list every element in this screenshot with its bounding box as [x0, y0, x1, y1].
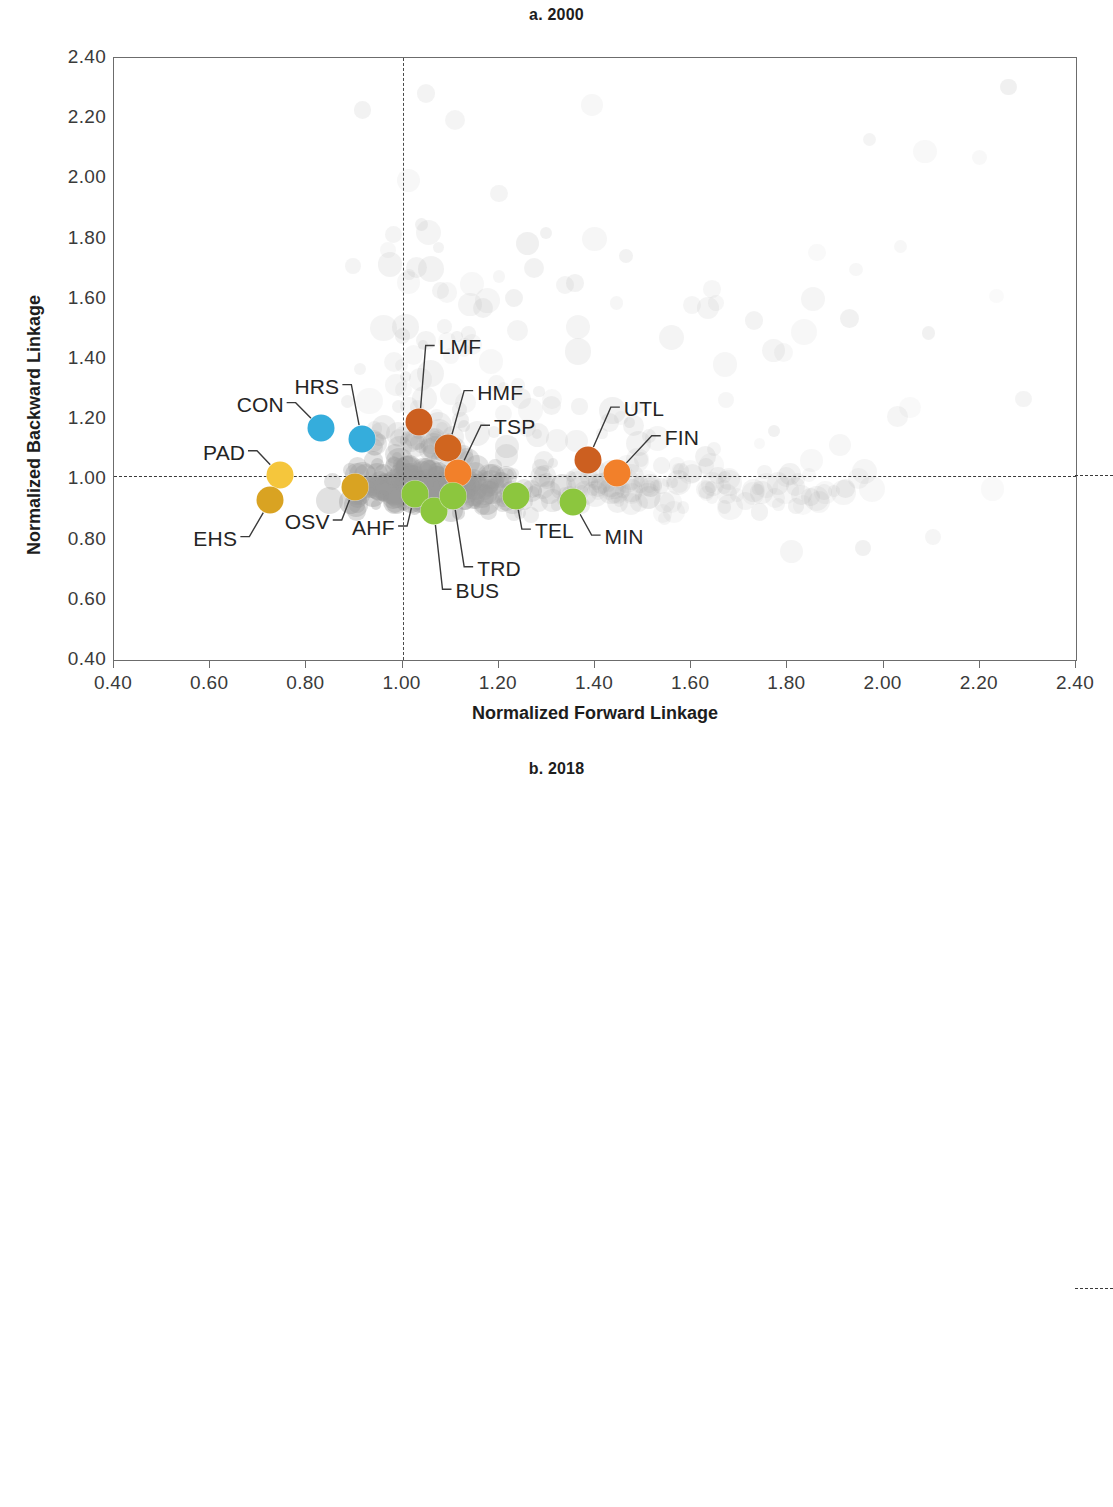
x-tick-label: 2.00: [864, 672, 902, 694]
x-tick-mark: [594, 661, 595, 668]
callout-label-bus: BUS: [456, 579, 500, 603]
x-tick-label: 0.40: [94, 672, 132, 694]
x-tick-mark: [209, 661, 210, 668]
callout-label-tel: TEL: [535, 519, 574, 543]
y-tick-label: 2.40: [68, 46, 106, 68]
callout-label-hmf: HMF: [477, 381, 523, 405]
x-tick-mark: [979, 661, 980, 668]
x-tick-mark: [113, 661, 114, 668]
y-axis-title-2000: Normalized Backward Linkage: [24, 295, 45, 555]
panel-2000: a. 2000 CONHRSPADEHSOSVLMFHMFTSPAHFBUSTR…: [0, 0, 1113, 740]
data-point-osv[interactable]: [341, 473, 368, 500]
data-point-tel[interactable]: [502, 482, 529, 509]
data-point-min[interactable]: [560, 488, 587, 515]
callout-label-hrs: HRS: [294, 375, 339, 399]
data-point-trd[interactable]: [440, 482, 467, 509]
y-tick-label: 2.00: [68, 166, 106, 188]
x-tick-mark: [498, 661, 499, 668]
y-tick-label: 2.20: [68, 106, 106, 128]
callout-label-ahf: AHF: [352, 516, 395, 540]
x-tick-label: 1.00: [383, 672, 421, 694]
background-scatter-cloud: [114, 58, 1076, 660]
reference-line-vertical: [403, 58, 404, 660]
panel-b-title: b. 2018: [0, 760, 1113, 778]
x-tick-label: 0.80: [286, 672, 324, 694]
x-tick-label: 2.20: [960, 672, 998, 694]
reference-line-horizontal: [114, 476, 1076, 477]
data-point-con[interactable]: [307, 415, 334, 442]
callout-label-tsp: TSP: [494, 415, 535, 439]
figure-root: a. 2000 CONHRSPADEHSOSVLMFHMFTSPAHFBUSTR…: [0, 0, 1113, 1507]
callout-label-fin: FIN: [665, 426, 699, 450]
callout-label-con: CON: [237, 393, 284, 417]
callout-label-pad: PAD: [203, 441, 245, 465]
x-tick-label: 0.60: [190, 672, 228, 694]
callout-label-osv: OSV: [285, 510, 330, 534]
x-tick-mark: [690, 661, 691, 668]
callout-label-utl: UTL: [624, 397, 664, 421]
data-point-fin[interactable]: [603, 460, 630, 487]
reference-line-horizontal-extension: [1075, 1288, 1113, 1289]
y-tick-label: 1.00: [68, 467, 106, 489]
x-axis-ticks-2000: 0.400.600.801.001.201.401.601.802.002.20…: [113, 672, 1077, 698]
x-axis-title-2000: Normalized Forward Linkage: [113, 703, 1077, 724]
y-tick-label: 1.40: [68, 347, 106, 369]
data-point-hmf[interactable]: [435, 434, 462, 461]
callout-label-lmf: LMF: [439, 335, 482, 359]
x-tick-label: 1.40: [575, 672, 613, 694]
y-tick-label: 0.60: [68, 588, 106, 610]
callout-label-trd: TRD: [477, 557, 521, 581]
callout-label-ehs: EHS: [193, 527, 237, 551]
data-point-lmf[interactable]: [406, 409, 433, 436]
data-point-pad[interactable]: [266, 461, 293, 488]
x-tick-label: 1.60: [671, 672, 709, 694]
x-tickmarks-2000: [0, 661, 1113, 668]
x-tick-mark: [305, 661, 306, 668]
data-point-ehs[interactable]: [257, 487, 284, 514]
x-tick-label: 2.40: [1056, 672, 1094, 694]
y-tick-label: 1.20: [68, 407, 106, 429]
plot-area-2000: CONHRSPADEHSOSVLMFHMFTSPAHFBUSTRDTELMINU…: [113, 57, 1077, 661]
y-tick-label: 0.80: [68, 528, 106, 550]
x-tick-label: 1.80: [767, 672, 805, 694]
y-tick-label: 1.80: [68, 227, 106, 249]
reference-line-horizontal-extension: [1075, 475, 1113, 476]
x-tick-mark: [786, 661, 787, 668]
panel-a-title: a. 2000: [0, 6, 1113, 24]
callout-label-min: MIN: [605, 525, 644, 549]
x-tick-mark: [402, 661, 403, 668]
data-point-hrs[interactable]: [348, 425, 375, 452]
data-point-utl[interactable]: [574, 446, 601, 473]
x-tick-mark: [883, 661, 884, 668]
x-tick-mark: [1075, 661, 1076, 668]
panel-2018: b. 2018 CONHRSPADEHSOSVLMFHMFTSPTRDBUSAH…: [0, 750, 1113, 1507]
y-tick-label: 1.60: [68, 287, 106, 309]
x-tick-label: 1.20: [479, 672, 517, 694]
